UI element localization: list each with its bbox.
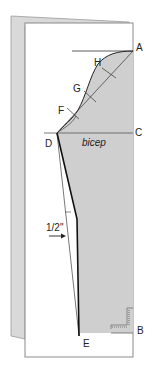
sleeve-pattern-diagram: A H G F C D bicep 1/2" B E bbox=[0, 0, 153, 372]
point-label-d: D bbox=[45, 138, 52, 149]
point-label-f: F bbox=[58, 105, 64, 116]
point-label-a: A bbox=[136, 42, 143, 53]
bicep-label: bicep bbox=[82, 137, 106, 148]
point-label-h: H bbox=[94, 57, 101, 68]
point-label-c: C bbox=[135, 127, 142, 138]
point-label-g: G bbox=[73, 83, 81, 94]
point-label-b: B bbox=[137, 325, 144, 336]
measurement-label: 1/2" bbox=[46, 222, 64, 233]
point-label-e: E bbox=[83, 338, 90, 349]
